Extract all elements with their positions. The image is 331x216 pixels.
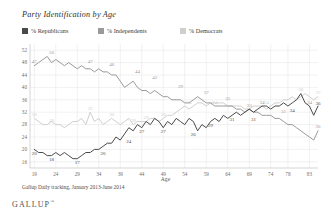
svg-text:37: 37 (204, 90, 210, 95)
svg-text:39: 39 (178, 84, 184, 89)
svg-text:40: 40 (22, 84, 28, 90)
svg-text:20: 20 (22, 146, 28, 152)
svg-text:44: 44 (22, 72, 28, 78)
svg-text:48: 48 (22, 59, 28, 65)
svg-text:31: 31 (281, 109, 287, 114)
svg-text:30: 30 (32, 112, 38, 117)
svg-text:50: 50 (49, 50, 55, 55)
svg-text:32: 32 (88, 106, 94, 111)
svg-text:30: 30 (161, 112, 167, 117)
svg-text:16: 16 (22, 159, 28, 165)
svg-text:36: 36 (22, 97, 28, 103)
svg-text:28: 28 (131, 118, 137, 123)
x-axis-title: Age (0, 176, 331, 182)
svg-text:28: 28 (22, 121, 28, 127)
source-note: Gallup Daily tracking, January 2013-June… (22, 184, 124, 190)
chart-card: Party Identification by Age % Republican… (0, 0, 331, 216)
svg-text:35: 35 (225, 96, 231, 101)
svg-text:34: 34 (307, 100, 313, 105)
svg-text:34: 34 (264, 100, 270, 105)
svg-text:46: 46 (109, 62, 115, 67)
svg-text:27: 27 (139, 129, 145, 134)
svg-text:31: 31 (230, 117, 236, 122)
svg-text:33: 33 (247, 103, 253, 108)
svg-text:36: 36 (316, 101, 322, 106)
svg-text:29: 29 (208, 123, 214, 128)
svg-text:31: 31 (251, 117, 257, 122)
svg-text:32: 32 (22, 109, 28, 115)
svg-text:44: 44 (135, 69, 141, 74)
svg-text:20: 20 (101, 151, 107, 156)
gallup-wordmark: GALLUP (12, 200, 50, 209)
svg-text:27: 27 (161, 129, 167, 134)
svg-text:17: 17 (75, 160, 81, 165)
svg-text:34: 34 (187, 100, 193, 105)
svg-text:18: 18 (49, 157, 55, 162)
svg-text:34: 34 (212, 100, 218, 105)
svg-text:24: 24 (22, 134, 28, 140)
svg-text:47: 47 (88, 59, 94, 64)
svg-text:47: 47 (32, 59, 38, 64)
svg-text:38: 38 (298, 87, 304, 92)
svg-text:52: 52 (22, 47, 28, 53)
gallup-logo: GALLUP™ (12, 199, 55, 209)
svg-text:30: 30 (109, 112, 115, 117)
svg-text:29: 29 (144, 115, 150, 120)
svg-text:24: 24 (126, 139, 132, 144)
series-lines (34, 56, 318, 158)
svg-text:20: 20 (32, 151, 38, 156)
y-tick-labels: 52484440363228242016 (22, 47, 28, 165)
svg-text:26: 26 (191, 132, 197, 137)
svg-text:42: 42 (152, 75, 158, 80)
svg-text:26: 26 (316, 124, 322, 129)
svg-text:37: 37 (316, 90, 322, 95)
trademark-icon: ™ (50, 199, 55, 204)
svg-text:34: 34 (290, 108, 296, 113)
svg-text:28: 28 (49, 118, 55, 123)
